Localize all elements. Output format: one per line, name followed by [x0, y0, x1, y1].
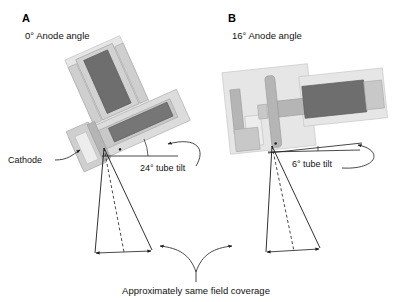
tube-b-anode-block [302, 80, 367, 118]
xray-tube-anode-angle-figure: A 0° Anode angle [0, 0, 393, 302]
figure-caption: Approximately same field coverage [122, 285, 270, 296]
panel-a: A 0° Anode angle [8, 12, 200, 253]
beam-central-ray-b [272, 146, 294, 251]
field-coverage-bracket [160, 246, 232, 282]
tilt-rotation-arrow-b [342, 145, 374, 168]
bracket-arm-left [160, 246, 196, 272]
tube-tilt-label-b: 6° tube tilt [292, 159, 333, 169]
panel-a-title: 0° Anode angle [25, 30, 90, 41]
tube-b-anode-stem [277, 98, 305, 117]
cathode-label-a: Cathode [8, 155, 42, 165]
panel-a-tube-assembly [39, 23, 192, 171]
beam-central-ray-a [104, 148, 124, 252]
tube-b-cathode-base [234, 127, 260, 151]
bracket-arm-right [196, 246, 232, 272]
tube-tilt-label-a: 24° tube tilt [140, 163, 186, 173]
figure-root: A 0° Anode angle [0, 0, 393, 302]
panel-b: B 16° Anode angle [222, 12, 390, 252]
tube-b-stem-collar [258, 104, 268, 119]
beam-edge-left-b [266, 146, 272, 252]
panel-b-title: 16° Anode angle [232, 30, 302, 41]
field-width-arrow-b [267, 249, 319, 252]
tilt-angle-arc-a [144, 139, 148, 156]
panel-b-tube-assembly [222, 56, 390, 154]
panel-b-letter: B [228, 12, 236, 24]
tube-b-anode-end-cap [364, 80, 385, 110]
panel-a-letter: A [22, 12, 30, 24]
